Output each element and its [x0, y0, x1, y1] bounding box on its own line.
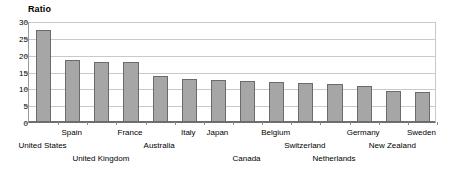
bar — [153, 76, 168, 122]
bar — [327, 84, 342, 122]
x-axis-label: Switzerland — [284, 141, 325, 150]
chart-title: Ratio — [28, 4, 51, 14]
x-axis-label: Spain — [61, 128, 81, 137]
x-axis-label: Germany — [347, 128, 380, 137]
plot-area — [28, 22, 436, 123]
bar — [94, 62, 109, 122]
x-axis-label: Sweden — [407, 128, 436, 137]
x-axis-label: Netherlands — [312, 154, 355, 163]
x-axis-label: United States — [19, 141, 67, 150]
x-axis-label: France — [118, 128, 143, 137]
x-axis-label: United Kingdom — [72, 154, 129, 163]
bar-series — [29, 23, 435, 122]
x-axis-label: Italy — [181, 128, 196, 137]
x-axis-label: Australia — [144, 141, 175, 150]
x-axis-label: Belgium — [261, 128, 290, 137]
y-axis: 051015202530 — [0, 22, 28, 123]
bar — [386, 91, 401, 122]
bar — [240, 81, 255, 122]
bar — [415, 92, 430, 122]
bar — [65, 60, 80, 122]
bar — [298, 83, 313, 122]
x-axis-label: Japan — [207, 128, 229, 137]
bar — [211, 80, 226, 122]
bar — [36, 30, 51, 122]
x-axis-label: Canada — [233, 154, 261, 163]
bar-chart: Ratio 051015202530 United StatesSpainUni… — [0, 0, 452, 194]
bar — [269, 82, 284, 122]
bar — [123, 62, 138, 122]
x-axis-label: New Zealand — [369, 141, 416, 150]
bar — [182, 79, 197, 122]
x-axis-labels: United StatesSpainUnited KingdomFranceAu… — [0, 124, 452, 194]
bar — [357, 86, 372, 122]
